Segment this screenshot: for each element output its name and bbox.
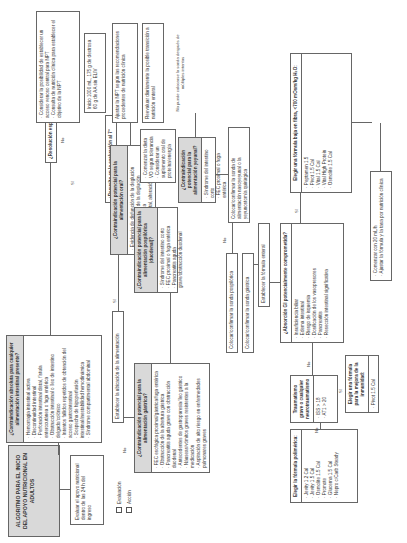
final-list: Comenzar con 20 mL/h Ajustar la fórmula … — [371, 172, 387, 280]
gastric-question: ¿Contraindicación potencial para la alim… — [135, 364, 152, 472]
oral-diet-list: Comenzar la dieta VO según tolerancia Co… — [141, 130, 175, 182]
npt-start-text: Inicio 1000 mL, 175 g de dextrosa 60 g d… — [85, 34, 101, 112]
legend-evaluation: Evaluación — [116, 482, 122, 513]
jejunal-contraindication-box: ¿Contraindicación potencial para la alim… — [178, 137, 216, 203]
connector — [118, 255, 119, 311]
no-label: No — [306, 362, 311, 367]
list-item: Perforación intestinal distal, fístula e… — [38, 339, 50, 438]
postpyloric-list: Síndrome del intestino corto FEC proxima… — [158, 208, 186, 292]
immunity-question: Elegir una fórmula para la mejora de la … — [346, 356, 369, 412]
connector — [380, 123, 381, 171]
jejunal-list: Síndrome del intestino corto FEC proxima… — [202, 138, 230, 202]
list-item: Aspiración de alto riesgo en enfermedade… — [196, 367, 208, 468]
absolute-contraindication-list: Hemorragia intestinal activa Discontinui… — [24, 336, 94, 442]
jejunal-question: ¿Contraindicación potencial para la alim… — [179, 138, 202, 202]
list-item: Pancreatitis aguda grave/obstrucción duo… — [172, 211, 184, 288]
yes-label: Sí — [294, 209, 299, 213]
list-item: Ajustar la fórmula y la tasa por nutrici… — [379, 175, 385, 276]
no-label: No — [60, 138, 65, 143]
low-fiber-formula-box: Elegir una fórmula baja en fibra, <700 m… — [290, 53, 352, 193]
npt-reeval-box: Reevaluar diariamente la posible transic… — [142, 23, 164, 123]
list-item: Sospecha de hipoperfusión intestinal/ine… — [74, 339, 86, 438]
trauma-box: Traumatismo grave o cualquier neurotraum… — [290, 375, 338, 423]
connector — [300, 193, 301, 223]
trauma-list: ISS > 18 AT1 > 20 — [314, 376, 330, 422]
start-action-box: Evaluar el apoyo nutricional dentro de l… — [70, 455, 104, 525]
list-item: Comenzar la dieta VO según tolerancia — [143, 133, 155, 178]
title-text: ALGORITMO PARA EL INICIO DEL APOYO NUTRI… — [15, 453, 35, 529]
connector — [60, 489, 70, 490]
connector — [270, 282, 280, 283]
connector — [195, 113, 196, 137]
connector — [50, 163, 51, 335]
place-postpyloric-box: Colocar/confirmar la sonda pospilórica — [226, 253, 238, 353]
no-label: No — [122, 448, 127, 453]
absolute-contraindication-box: ¿Contraindicación absoluta para cualquie… — [6, 335, 102, 443]
place-gastric-box: Colocar/confirmar la sonda gástrica — [242, 253, 254, 353]
npt-list: Considerar la posibilidad de establecer … — [37, 12, 65, 122]
immunity-formula-box: Elegir una fórmula para la mejora de la … — [345, 355, 379, 413]
yes-label: Sí — [338, 389, 343, 393]
yes-label: Sí — [70, 181, 75, 185]
legend-action: Acción — [126, 490, 132, 513]
gi-absorption-box: ¿Absorción GI potencialmente comprometid… — [280, 223, 344, 343]
npt-adjust-box: Ajustar la NPT según las recomendaciones… — [112, 23, 138, 123]
flowchart-canvas: ALGORITMO PARA EL INICIO DEL APOYO NUTRI… — [0, 0, 407, 543]
establish-location-box: Establecer la ubicación de la alimentaci… — [112, 311, 124, 423]
npt-reeval-text: Reevaluar diariamente la posible transic… — [143, 24, 159, 122]
list-item: Antecedentes de gastroparesia/íleo gástr… — [178, 367, 184, 468]
gi-list: Insuficiencia biliar Edema intestinal Ri… — [292, 224, 332, 342]
list-item: Obstrucción intestinal o íleo de intesti… — [50, 339, 62, 438]
gastric-list: FEC esofágica proximal/gástrica/fuga ent… — [152, 364, 210, 472]
start-action-text: Evaluar el apoyo nutricional dentro de l… — [71, 456, 97, 524]
list-item: Pivot 1.5 Cal — [371, 359, 377, 408]
oral-contraindication-question: ¿Contraindicación potencial para la alim… — [111, 146, 128, 254]
no-sonda-note: No puede colocarse la sonda después de m… — [175, 33, 185, 113]
polymeric-formula-box: Elegir la fórmula polimérica: Jevity 1.2… — [290, 429, 358, 503]
immunity-list: Pivot 1.5 Cal — [369, 356, 379, 412]
list-item: Pancreatitis aguda grave con obstrucción… — [166, 367, 178, 468]
npt-consider-box: Considerar la posibilidad de establecer … — [36, 11, 80, 123]
connector — [58, 443, 59, 455]
list-item: Considerar la posibilidad de establecer … — [39, 15, 51, 118]
connector — [312, 343, 313, 375]
connector — [232, 223, 233, 253]
list-item: Consulta de nutrición clínica para estab… — [51, 15, 63, 118]
list-item: Intentos fallidos repetidos de obtención… — [62, 339, 74, 438]
npt-adjust-text: Ajustar la NPT según las recomendaciones… — [113, 24, 129, 122]
legend-label: Acción — [127, 490, 132, 504]
connector — [216, 174, 228, 175]
list-item: Osmolite 1.5 Cal — [328, 57, 334, 188]
postpyloric-contraindication-box: ¿Contraindicación potencial para la alim… — [134, 207, 178, 293]
place-postpyloric-text: Colocar/confirmar la sonda pospilórica — [227, 254, 237, 352]
polymeric-list: Jevity 1.2 Cal Jevity 1.5 Cal Osmolite 1… — [302, 430, 342, 502]
place-nj-text: Colocar/confirmar la sonda de alimentaci… — [229, 128, 251, 222]
list-item: FEC proximal o fuga entérica — [216, 141, 228, 198]
final-action-box: Comenzar con 20 mL/h Ajustar la fórmula … — [370, 171, 392, 281]
list-item: Náuseas/vómitos graves resistentes a la … — [184, 367, 196, 468]
evaluation-legend-icon — [116, 507, 122, 513]
connector — [320, 423, 321, 429]
legend-label: Evaluación — [117, 482, 122, 504]
yes-label: Sí — [112, 299, 117, 303]
low-fiber-question: Elegir una fórmula baja en fibra, <700 m… — [291, 54, 302, 192]
trauma-question: Traumatismo grave o cualquier neurotraum… — [291, 376, 314, 422]
action-legend-icon — [126, 507, 132, 513]
list-item: AT1 > 20 — [322, 379, 328, 418]
algorithm-title: ALGORITMO PARA EL INICIO DEL APOYO NUTRI… — [8, 445, 60, 537]
postpyloric-question: ¿Contraindicación potencial para la alim… — [135, 208, 158, 292]
connector — [124, 417, 134, 418]
gi-absorption-question: ¿Absorción GI potencialmente comprometid… — [281, 224, 292, 342]
establish-location-text: Establecer la ubicación de la alimentaci… — [113, 312, 123, 422]
absolute-contraindication-question: ¿Contraindicación absoluta para cualquie… — [7, 336, 24, 442]
list-item: Nepro c/Carb Steady — [334, 433, 340, 498]
oral-diet-box: Comenzar la dieta VO según tolerancia Co… — [140, 129, 176, 183]
connector — [254, 264, 258, 265]
list-item: Considerar un suplemento oral de proteín… — [155, 133, 173, 178]
gastric-contraindication-box: ¿Contraindicación potencial para la alim… — [134, 363, 210, 473]
connector — [170, 293, 171, 363]
list-item: Síndrome compartimental abdominal — [86, 339, 92, 438]
connector — [352, 122, 372, 123]
npt-start-box: Inicio 1000 mL, 175 g de dextrosa 60 g d… — [84, 33, 106, 113]
place-gastric-text: Colocar/confirmar la sonda gástrica — [243, 254, 253, 352]
